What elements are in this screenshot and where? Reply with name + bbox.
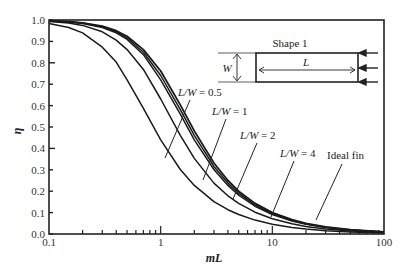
curve-annotations: L/W = 0.5 L/W = 1 L/W = 2 L/W = 4 Ideal … <box>165 86 364 220</box>
y-axis-title: η <box>10 127 24 134</box>
y-tick-label: 0.4 <box>31 142 45 154</box>
y-tick-label: 0.3 <box>31 164 45 176</box>
length-label: L <box>302 56 309 68</box>
y-tick-label: 0.8 <box>31 57 45 69</box>
y-tick-label: 0.5 <box>31 121 45 133</box>
curve-l-w-0-5 <box>49 23 384 233</box>
x-tick-label: 0.1 <box>42 236 56 248</box>
x-tick-label: 1 <box>158 236 164 248</box>
shape-inset: Shape 1 W L <box>218 37 378 85</box>
label-lw-0.5: L/W = 0.5 <box>177 86 222 98</box>
plot-frame <box>49 20 384 234</box>
y-axis-ticks: 0.00.10.20.30.40.50.60.70.80.91.0 <box>31 14 55 240</box>
label-lw-2: L/W = 2 <box>239 129 276 141</box>
heat-flow-arrows <box>359 50 378 85</box>
width-label: W <box>222 62 232 74</box>
y-tick-label: 0.2 <box>31 185 45 197</box>
label-lw-4: L/W = 4 <box>279 147 316 159</box>
x-axis-title: mL <box>206 251 223 265</box>
x-tick-label: 100 <box>376 236 393 248</box>
label-ideal-fin: Ideal fin <box>327 149 364 161</box>
inset-title: Shape 1 <box>272 37 307 49</box>
x-tick-label: 10 <box>267 236 279 248</box>
y-tick-label: 0.7 <box>31 78 45 90</box>
y-tick-label: 0.1 <box>31 207 45 219</box>
y-tick-label: 0.9 <box>31 35 45 47</box>
y-tick-label: 0.6 <box>31 100 45 112</box>
label-lw-1: L/W = 1 <box>211 105 248 117</box>
y-tick-label: 1.0 <box>31 14 45 26</box>
fin-efficiency-chart: 0.00.10.20.30.40.50.60.70.80.91.0 0.1110… <box>0 0 409 272</box>
